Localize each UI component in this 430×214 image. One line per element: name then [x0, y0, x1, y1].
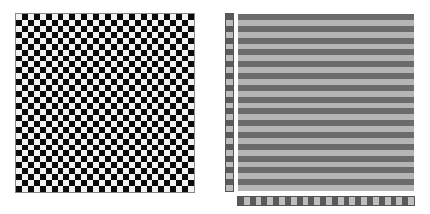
canvas: checkerboard striped-grid [0, 0, 430, 214]
checkerboard-pattern [16, 14, 194, 192]
stripe-row [238, 185, 414, 191]
vertical-color-strip [226, 14, 233, 191]
horizontal-color-strip [238, 197, 414, 205]
strip-cell [408, 197, 414, 205]
checker-cell [188, 186, 194, 192]
horizontal-stripe-pattern [238, 14, 414, 191]
strip-cell [226, 185, 233, 191]
